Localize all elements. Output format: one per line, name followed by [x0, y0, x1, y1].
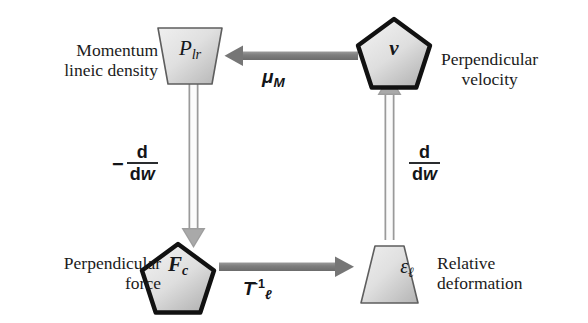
label-line-2: lineic density	[64, 60, 158, 80]
symbol-main: P	[179, 36, 192, 60]
label-momentum-lineic-density: Momentum lineic density	[64, 40, 158, 81]
label-line-1: Relative	[437, 253, 495, 273]
symbol-main: F	[168, 252, 182, 276]
edge-subscript: M	[273, 75, 284, 90]
edge-symbol: μ	[262, 66, 273, 87]
symbol-momentum-lineic-density: Plr	[152, 36, 228, 63]
edge-subscript: ℓ	[265, 287, 272, 302]
denominator-d: d	[412, 164, 423, 184]
label-perpendicular-velocity: Perpendicular velocity	[441, 49, 538, 90]
minus-sign: −	[112, 154, 124, 174]
derivative-fraction: d dw	[409, 143, 440, 184]
fraction-numerator: d	[127, 143, 158, 161]
edge-momentum-to-force	[182, 84, 206, 248]
symbol-main: ε	[400, 255, 408, 277]
edge-velocity-to-momentum	[225, 46, 359, 67]
fraction-denominator: dw	[127, 165, 158, 184]
label-line-2: force	[125, 273, 161, 293]
edge-label-velocity-to-momentum: μM	[262, 66, 285, 90]
symbol-subscript: ℓ	[408, 265, 414, 280]
edge-label-deformation-to-velocity: d dw	[409, 143, 440, 184]
symbol-perpendicular-velocity: v	[356, 36, 432, 61]
label-line-1: Perpendicular	[64, 253, 161, 273]
fraction-numerator: d	[409, 143, 440, 161]
edge-label-force-to-deformation: T−1ℓ	[243, 277, 272, 302]
fraction-denominator: dw	[409, 165, 440, 184]
edge-deformation-to-velocity	[378, 75, 402, 240]
derivative-fraction: d dw	[127, 143, 158, 184]
denominator-variable: w	[423, 164, 437, 184]
label-line-1: Momentum	[76, 40, 158, 60]
label-line-2: velocity	[441, 69, 538, 89]
label-line-1: Perpendicular	[441, 49, 538, 69]
denominator-variable: w	[141, 164, 155, 184]
label-relative-deformation: Relative deformation	[437, 253, 523, 294]
edge-label-momentum-to-force: − d dw	[112, 143, 158, 184]
symbol-subscript: c	[182, 263, 188, 278]
label-line-2: deformation	[437, 273, 523, 293]
diagram-canvas: Plr v Fc εℓ Momentum lineic density Perp…	[0, 0, 588, 323]
label-perpendicular-force: Perpendicular force	[64, 253, 161, 294]
denominator-d: d	[130, 164, 141, 184]
edge-force-to-deformation	[219, 257, 354, 278]
symbol-subscript: lr	[192, 46, 201, 62]
symbol-relative-deformation: εℓ	[369, 255, 445, 281]
edge-superscript: −1	[251, 277, 265, 291]
symbol-main: v	[389, 36, 398, 60]
